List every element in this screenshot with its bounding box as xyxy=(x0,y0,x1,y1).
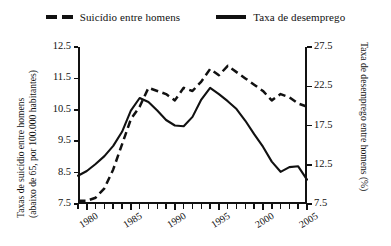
tick-mark xyxy=(192,204,194,209)
tick-mark xyxy=(307,46,312,48)
dashed-line-swatch-icon xyxy=(46,15,73,18)
tick-mark xyxy=(139,204,141,209)
chart-figure: Suicídio entre homens Taxa de desemprego… xyxy=(0,0,391,246)
y-axis-right-tick-label: 17.5 xyxy=(314,119,332,130)
tick-mark xyxy=(201,204,203,209)
y-axis-right-tick-label: 27.5 xyxy=(314,40,332,51)
series-paths xyxy=(78,47,307,204)
tick-mark xyxy=(157,204,159,209)
tick-mark xyxy=(148,204,150,209)
tick-mark xyxy=(262,204,264,210)
y-axis-left-tick-label: 11.5 xyxy=(53,71,71,82)
x-axis-tick-label: 1995 xyxy=(209,210,232,230)
tick-mark xyxy=(165,204,167,209)
y-axis-left-tick-label: 7.5 xyxy=(58,197,71,208)
tick-mark xyxy=(130,204,132,210)
tick-mark xyxy=(209,204,211,209)
tick-mark xyxy=(227,204,229,209)
y-axis-left-title-line1: Taxas de suicídio entre homens xyxy=(15,70,27,218)
tick-mark xyxy=(112,204,114,209)
tick-mark xyxy=(104,204,106,209)
y-axis-left-title-line2: (abaixo de 65, por 100.000 habitantes) xyxy=(27,70,39,218)
x-axis-tick-label: 2000 xyxy=(253,210,276,230)
y-axis-right-tick-label: 12.5 xyxy=(314,158,332,169)
tick-mark xyxy=(253,204,255,209)
tick-mark xyxy=(307,164,312,166)
tick-mark xyxy=(174,204,176,210)
x-axis-tick-label: 2005 xyxy=(297,210,320,230)
solid-line-swatch-icon xyxy=(216,15,246,18)
tick-mark xyxy=(280,204,282,209)
tick-mark xyxy=(271,204,273,209)
legend-label-suicide: Suicídio entre homens xyxy=(80,11,180,23)
legend-label-unemployment: Taxa de desemprego xyxy=(253,11,345,23)
plot-area: 12.511.510.59.58.57.5 27.522.517.512.57.… xyxy=(78,47,307,204)
tick-mark xyxy=(289,204,291,209)
tick-mark xyxy=(236,204,238,209)
tick-mark xyxy=(77,204,79,209)
chart-legend: Suicídio entre homens Taxa de desemprego xyxy=(0,6,391,28)
y-axis-left-title: Taxas de suicídio entre homens (abaixo d… xyxy=(15,70,39,218)
tick-mark xyxy=(306,204,308,210)
tick-mark xyxy=(86,204,88,210)
legend-item-unemployment: Taxa de desemprego xyxy=(216,11,345,23)
x-axis-tick-label: 1985 xyxy=(121,210,144,230)
y-axis-left-tick-label: 12.5 xyxy=(53,40,71,51)
tick-mark xyxy=(183,204,185,209)
y-axis-right-tick-label: 22.5 xyxy=(314,79,332,90)
y-axis-left-tick-label: 10.5 xyxy=(53,103,71,114)
series-line-suicide xyxy=(78,66,307,201)
x-axis-tick-label: 1990 xyxy=(165,210,188,230)
series-line-unemployment xyxy=(78,88,307,180)
x-axis-tick-label: 1980 xyxy=(77,210,100,230)
tick-mark xyxy=(307,125,312,127)
tick-mark xyxy=(121,204,123,209)
tick-mark xyxy=(307,86,312,88)
y-axis-right-tick-label: 7.5 xyxy=(314,197,327,208)
y-axis-right-title: Taxa de desemprego entre homens (%) xyxy=(358,42,370,191)
tick-mark xyxy=(218,204,220,210)
y-axis-left-tick-label: 8.5 xyxy=(58,166,71,177)
tick-mark xyxy=(245,204,247,209)
tick-mark xyxy=(297,204,299,209)
legend-item-suicide: Suicídio entre homens xyxy=(46,11,180,23)
tick-mark xyxy=(95,204,97,209)
y-axis-left-tick-label: 9.5 xyxy=(58,134,71,145)
